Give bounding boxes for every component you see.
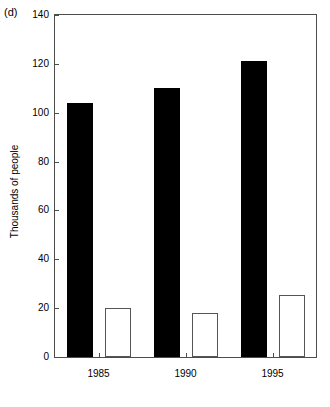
bar-hollow-1990 (192, 313, 218, 357)
y-axis-tick-mark (55, 64, 59, 65)
y-axis-tick-mark (55, 113, 59, 114)
y-axis-tick-label: 20 (38, 303, 55, 313)
y-axis-title: Thousands of people (9, 112, 20, 272)
bar-filled-1985 (67, 103, 93, 357)
bar-hollow-1995 (279, 295, 305, 357)
y-axis-tick-label: 80 (38, 157, 55, 167)
y-axis-tick-mark (55, 15, 59, 16)
x-axis-tick-label: 1990 (174, 357, 196, 379)
y-axis-tick-mark (55, 210, 59, 211)
plot-area: 020406080100120140198519901995 (54, 14, 317, 358)
y-axis-tick-label: 140 (32, 10, 55, 20)
y-axis-tick-mark (55, 259, 59, 260)
bar-filled-1990 (154, 88, 180, 357)
y-axis-tick-mark (55, 308, 59, 309)
bar-filled-1995 (241, 61, 267, 357)
panel-label: (d) (4, 6, 17, 18)
bar-hollow-1985 (105, 308, 131, 357)
x-axis-tick-label: 1985 (87, 357, 109, 379)
figure-panel-d: (d) Thousands of people 0204060801001201… (0, 0, 330, 407)
x-axis-tick-label: 1995 (261, 357, 283, 379)
y-axis-tick-label: 0 (43, 352, 55, 362)
y-axis-tick-label: 40 (38, 254, 55, 264)
y-axis-tick-mark (55, 357, 59, 358)
y-axis-tick-label: 100 (32, 108, 55, 118)
y-axis-tick-mark (55, 162, 59, 163)
y-axis-tick-label: 60 (38, 205, 55, 215)
y-axis-tick-label: 120 (32, 59, 55, 69)
